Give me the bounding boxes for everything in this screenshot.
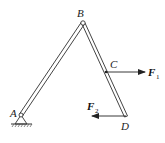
label-d: D [120, 120, 129, 132]
svg-text:1: 1 [156, 73, 160, 81]
label-a: A [9, 107, 17, 119]
diagram-canvas: A B C D F 1 F 2 [0, 0, 165, 143]
bar-ab [20, 22, 85, 116]
label-f2: F 2 [86, 100, 99, 115]
label-b: B [77, 7, 84, 19]
hinge-b [81, 21, 85, 25]
mechanism-diagram: A B C D F 1 F 2 [0, 0, 165, 143]
svg-text:F: F [86, 100, 95, 112]
svg-text:2: 2 [95, 107, 99, 115]
label-c: C [110, 58, 118, 70]
label-f1: F 1 [147, 66, 160, 81]
svg-text:F: F [147, 66, 156, 78]
